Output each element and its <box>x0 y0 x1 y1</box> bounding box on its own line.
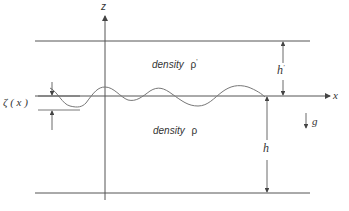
lower-density-symbol: ρ <box>191 125 197 136</box>
z-axis-label: z <box>101 1 106 12</box>
zeta-label: ζ ( x ) <box>3 96 28 108</box>
h-label: h <box>263 141 269 156</box>
x-axis-label: x <box>333 89 338 101</box>
diagram-canvas <box>0 0 349 211</box>
h-prime-label: h' <box>277 63 285 78</box>
h-prime-mark: ' <box>283 63 285 71</box>
upper-density-prime: ' <box>196 58 197 65</box>
upper-density-label: density ρ' <box>152 58 198 70</box>
gravity-label: g <box>312 115 318 127</box>
lower-density-label: density ρ <box>153 125 197 136</box>
upper-density-text: density <box>152 59 184 70</box>
lower-density-text: density <box>153 125 185 136</box>
